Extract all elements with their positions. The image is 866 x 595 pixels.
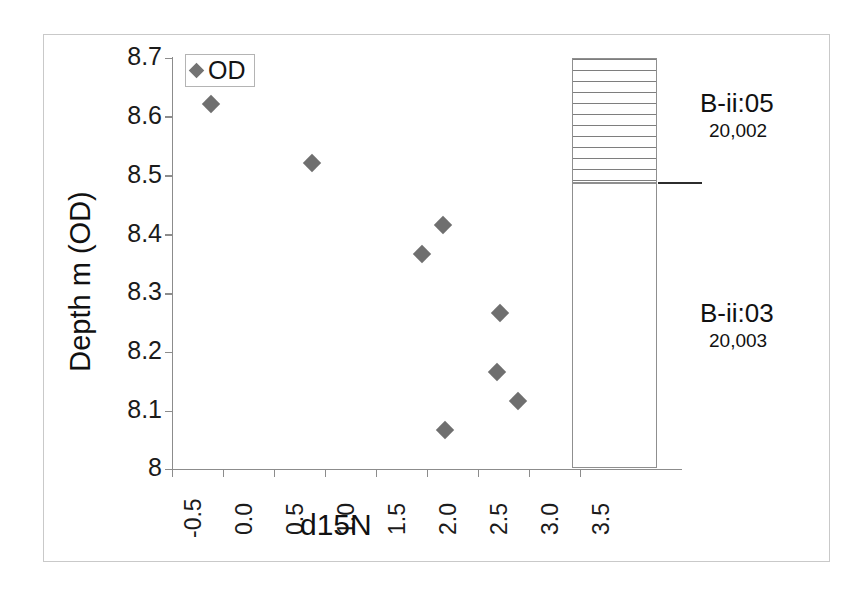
lithology-label-b-ii-05-code: 20,002 xyxy=(709,120,767,143)
lithology-column xyxy=(572,58,657,468)
y-tick-8.4 xyxy=(165,234,172,236)
x-tick-label-2.0: 2.0 xyxy=(435,503,462,535)
y-axis-title: Depth m (OD) xyxy=(64,191,97,371)
y-tick-8.3 xyxy=(165,293,172,295)
x-tick-3.0 xyxy=(529,469,531,477)
y-tick-label-8: 8 xyxy=(117,453,162,482)
figure-root: 8.7 8.6 8.5 8.4 8.3 8.2 8.1 8 Depth m (O… xyxy=(0,0,866,595)
y-tick-label-8.1: 8.1 xyxy=(117,395,162,424)
x-tick--0.5 xyxy=(172,469,174,477)
legend-item-label: OD xyxy=(208,58,246,83)
y-tick-label-8.7: 8.7 xyxy=(117,42,162,71)
diamond-marker-icon xyxy=(189,62,205,78)
x-tick-label-1.5: 1.5 xyxy=(384,503,411,535)
x-axis-title: d15N xyxy=(300,508,372,542)
y-tick-label-8.3: 8.3 xyxy=(117,277,162,306)
lithology-segment-b-ii-03 xyxy=(572,183,657,468)
legend: OD xyxy=(185,54,255,87)
y-axis-line xyxy=(172,57,174,470)
x-tick-2.0 xyxy=(427,469,429,477)
x-tick-label-3.0: 3.0 xyxy=(537,503,564,535)
y-tick-label-8.2: 8.2 xyxy=(117,336,162,365)
y-tick-8.7 xyxy=(165,58,172,60)
x-tick-1.0 xyxy=(325,469,327,477)
x-tick-label-3.5: 3.5 xyxy=(588,503,615,535)
y-tick-label-8.6: 8.6 xyxy=(117,101,162,130)
x-tick-label-2.5: 2.5 xyxy=(486,503,513,535)
x-tick-2.5 xyxy=(478,469,480,477)
y-tick-label-8.5: 8.5 xyxy=(117,160,162,189)
lithology-label-b-ii-03-name: B-ii:03 xyxy=(700,300,774,327)
lithology-boundary-tick xyxy=(658,182,702,184)
y-tick-8.2 xyxy=(165,352,172,354)
y-tick-8.1 xyxy=(165,411,172,413)
lithology-label-b-ii-03-code: 20,003 xyxy=(709,330,767,353)
x-tick-label-0.0: 0.0 xyxy=(231,503,258,535)
x-tick-3.5 xyxy=(580,469,582,477)
x-tick-label--0.5: -0.5 xyxy=(180,498,207,538)
lithology-segment-b-ii-05 xyxy=(572,58,657,183)
x-tick-0.0 xyxy=(223,469,225,477)
y-tick-8.6 xyxy=(165,116,172,118)
x-tick-0.5 xyxy=(274,469,276,477)
y-tick-8.5 xyxy=(165,175,172,177)
lithology-label-b-ii-05-name: B-ii:05 xyxy=(700,90,774,117)
x-tick-1.5 xyxy=(376,469,378,477)
y-tick-label-8.4: 8.4 xyxy=(117,219,162,248)
